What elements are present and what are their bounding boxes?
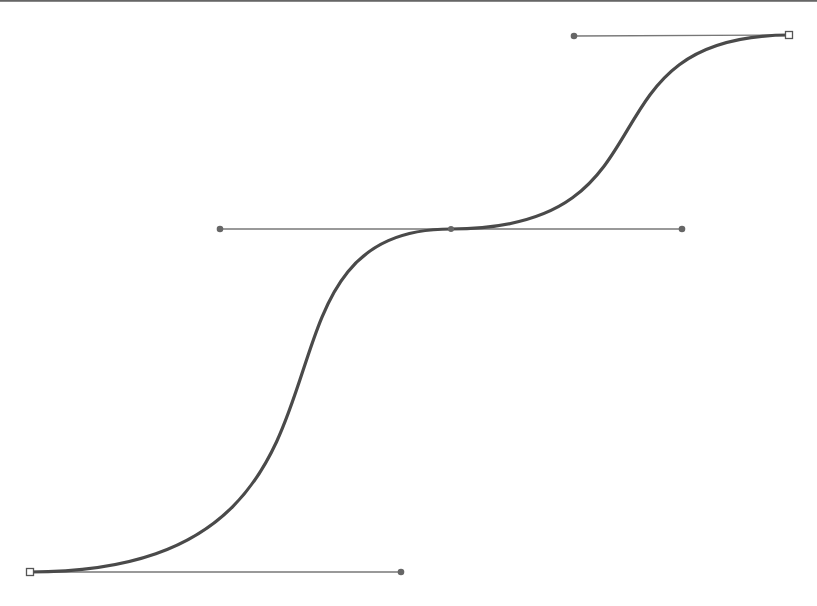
anchor-points (27, 32, 793, 576)
bezier-curve[interactable] (30, 35, 789, 572)
bezier-canvas (0, 0, 817, 606)
handle-points (217, 33, 686, 576)
bezier-diagram (0, 0, 817, 606)
handle-lines (30, 35, 789, 572)
control-handle-point[interactable] (398, 569, 405, 576)
control-handle-point[interactable] (571, 33, 578, 40)
anchor-point-start[interactable] (27, 569, 34, 576)
anchor-point-mid[interactable] (448, 226, 454, 232)
control-handle-point[interactable] (217, 226, 224, 233)
anchor-point-end[interactable] (786, 32, 793, 39)
control-handle-point[interactable] (679, 226, 686, 233)
